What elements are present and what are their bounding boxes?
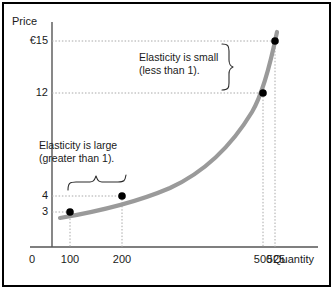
x-tick-100: 100: [55, 253, 85, 265]
y-tick-12: 12: [8, 86, 48, 98]
y-tick-3: 3: [8, 205, 48, 217]
y-axis-title: Price: [12, 15, 37, 27]
annotation-elastic-line2: (greater than 1).: [39, 152, 117, 165]
annotation-inelastic: Elasticity is small (less than 1).: [139, 51, 218, 76]
x-tick-525: 525: [261, 253, 291, 265]
y-tick-15: €15: [8, 34, 48, 46]
elasticity-supply-curve-figure: Price Quantity €15 12 4 3 0 100 200 500 …: [0, 0, 335, 291]
annotation-elastic: Elasticity is large (greater than 1).: [39, 139, 117, 164]
annotation-inelastic-line1: Elasticity is small: [139, 51, 218, 64]
annotation-elastic-line1: Elasticity is large: [39, 139, 117, 152]
x-tick-0: 0: [22, 253, 42, 265]
annotation-inelastic-line2: (less than 1).: [139, 64, 218, 77]
x-tick-200: 200: [107, 253, 137, 265]
y-tick-4: 4: [8, 189, 48, 201]
